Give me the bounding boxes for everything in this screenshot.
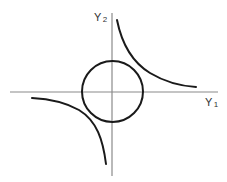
hyperbola-branch-upper-right	[117, 20, 196, 87]
y2-label-base: Y	[94, 11, 102, 23]
phase-diagram	[0, 0, 227, 182]
y2-label-subscript: 2	[103, 15, 108, 24]
y1-label-subscript: 1	[214, 100, 219, 109]
y1-label-base: Y	[205, 96, 213, 108]
hyperbola-branch-lower-left	[32, 98, 106, 164]
y2-axis-label: Y2	[94, 12, 108, 24]
y1-axis-label: Y1	[205, 97, 219, 109]
